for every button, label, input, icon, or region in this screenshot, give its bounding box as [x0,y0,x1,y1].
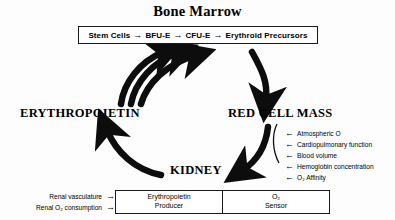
renal-input-label-vasculature: Renal vasculature [49,193,102,200]
pathway-arrow-icon-3: → [213,31,222,40]
erythropoiesis-chain: Stem Cells → BFU-E → CFU-E → Erythroid P… [88,31,307,40]
factor-label-hemoglobin-concentration: Hemoglobin concentration [297,163,374,170]
pathway-arrow-icon-1: → [133,31,142,40]
kidney-cell-erythropoietin-producer: Erythropoietin Producer [116,191,223,213]
arrow-kidney-to-epo [107,130,161,175]
factor-label-atmospheric-o2: Atmospheric O [297,130,341,137]
kidney-sensor-line-1: O₂ [272,193,280,202]
factor-label-blood-volume: Blood volume [297,152,337,159]
node-label-erythropoietin: ERYTHROPOIETIN [20,106,140,121]
arrow-epo-to-marrow-group [121,52,194,104]
left-arrow-icon: ← [285,173,294,182]
page-title: Bone Marrow [0,3,395,20]
kidney-cell-o2-sensor: O₂ Sensor [223,191,329,213]
right-arrow-icon: → [106,203,115,212]
factor-row: ← Cardiopulmonary function [285,139,395,150]
left-arrow-icon: ← [285,162,294,171]
renal-input-row: Renal vasculature → [8,191,115,202]
right-arrow-icon: → [106,192,115,201]
pathway-step-cfu-e: CFU-E [185,31,210,40]
factor-brace [273,124,279,163]
renal-input-row: Renal O₂ consumption → [8,202,115,213]
factor-label-o2-affinity: O₂ Affinity [297,174,326,181]
pathway-step-erythroid-precursors: Erythroid Precursors [226,31,308,40]
kidney-sensor-line-2: Sensor [265,202,287,211]
kidney-function-box: Erythropoietin Producer O₂ Sensor [115,190,330,214]
arrow-marrow-to-red-cell-mass [252,52,266,100]
bone-marrow-pathway-box: Stem Cells → BFU-E → CFU-E → Erythroid P… [78,26,318,44]
left-arrow-icon: ← [285,140,294,149]
renal-input-label-o2-consumption: Renal O₂ consumption [36,204,102,211]
pathway-step-bfu-e: BFU-E [145,31,170,40]
node-label-kidney: KIDNEY [170,163,222,178]
pathway-arrow-icon-2: → [173,31,182,40]
node-label-red-cell-mass: RED CELL MASS [228,106,333,121]
red-cell-mass-factor-list: ← Atmospheric O ← Cardiopulmonary functi… [285,128,395,183]
pathway-step-stem-cells: Stem Cells [88,31,130,40]
left-arrow-icon: ← [285,129,294,138]
factor-row: ← Atmospheric O [285,128,395,139]
factor-row: ← Blood volume [285,150,395,161]
arrow-red-cell-mass-to-kidney [243,127,268,170]
renal-input-list: Renal vasculature → Renal O₂ consumption… [8,190,115,214]
kidney-producer-line-1: Erythropoietin [147,193,190,202]
factor-row: ← O₂ Affinity [285,172,395,183]
factor-row: ← Hemoglobin concentration [285,161,395,172]
diagram-canvas: Bone Marrow Stem Cells → BFU-E → CFU-E →… [0,0,395,220]
left-arrow-icon: ← [285,151,294,160]
factor-label-cardiopulmonary-function: Cardiopulmonary function [297,141,372,148]
kidney-producer-line-2: Producer [155,202,183,211]
